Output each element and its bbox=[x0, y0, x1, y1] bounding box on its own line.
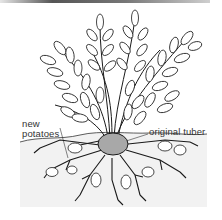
original-tuber-label: original tuber bbox=[149, 127, 205, 137]
leaves bbox=[39, 10, 203, 127]
original-tuber bbox=[98, 133, 128, 155]
new-potatoes-label: new potatoes bbox=[22, 119, 59, 139]
new-potatoes-label-line2: potatoes bbox=[22, 129, 59, 139]
potato-plant-illustration bbox=[0, 0, 222, 220]
